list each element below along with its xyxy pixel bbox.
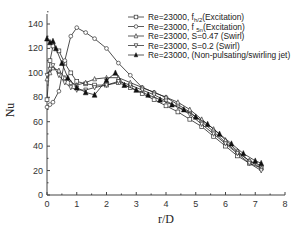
y-tick-label: 100 <box>28 68 43 78</box>
y-axis-label: Nu <box>3 103 17 118</box>
y-tick-label: 0 <box>38 190 43 200</box>
legend: Re=23000, fh/2(Excitation)Re=23000, f 5n… <box>128 12 290 60</box>
legend-item: Re=23000, (Non-pulsating/swirling jet) <box>128 50 290 60</box>
legend-label: Re=23000, S=0.47 (Swirl) <box>148 31 245 41</box>
legend-item: Re=23000, S=0.47 (Swirl) <box>128 31 245 41</box>
x-tick-label: 6 <box>223 199 228 209</box>
x-tick-label: 0 <box>44 199 49 209</box>
legend-item: Re=23000, S=0.2 (Swirl) <box>128 41 240 51</box>
x-tick-label: 8 <box>282 199 287 209</box>
series-0 <box>45 44 263 170</box>
y-tick-label: 120 <box>28 43 43 53</box>
x-tick-label: 4 <box>163 199 168 209</box>
nusselt-chart: 012345678020406080100120140 Re=23000, fh… <box>0 0 300 233</box>
legend-label: Re=23000, (Non-pulsating/swirling jet) <box>148 50 290 60</box>
y-tick-label: 140 <box>28 19 43 29</box>
x-tick-label: 1 <box>74 199 79 209</box>
x-tick-label: 5 <box>193 199 198 209</box>
legend-label: Re=23000, S=0.2 (Swirl) <box>148 41 240 51</box>
y-tick-label: 80 <box>33 92 43 102</box>
y-tick-label: 20 <box>33 166 43 176</box>
x-tick-label: 2 <box>104 199 109 209</box>
y-tick-label: 60 <box>33 117 43 127</box>
x-tick-label: 7 <box>253 199 258 209</box>
x-tick-label: 3 <box>134 199 139 209</box>
y-tick-label: 40 <box>33 141 43 151</box>
x-axis-label: r/D <box>158 212 174 226</box>
